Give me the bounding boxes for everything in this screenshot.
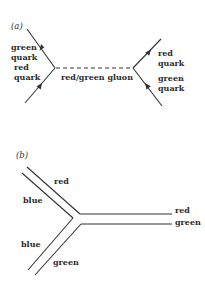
- label-green: green: [158, 73, 184, 83]
- label-green: green: [53, 257, 79, 267]
- label-blue: blue: [21, 239, 41, 249]
- feynman-diagram-canvas: (a) green quark red quark red/green gluo…: [0, 0, 205, 283]
- label-quark: quark: [14, 72, 41, 82]
- panel-a-label: (a): [11, 21, 23, 31]
- label-quark: quark: [11, 52, 38, 62]
- label-quark: quark: [158, 83, 185, 93]
- label-red: red: [158, 48, 173, 58]
- panel-b-label: (b): [16, 150, 28, 160]
- panel-a: (a) green quark red quark red/green gluo…: [11, 21, 185, 106]
- label-red: red: [175, 205, 190, 215]
- gluon-label: red/green gluon: [61, 72, 133, 82]
- arrow-icon: [145, 83, 151, 90]
- panel-b: (b) red blue blue green red green: [16, 150, 201, 275]
- label-red: red: [14, 62, 29, 72]
- label-quark: quark: [158, 58, 185, 68]
- red-color-line-upper: [27, 167, 80, 214]
- label-green: green: [175, 217, 201, 227]
- label-green: green: [11, 42, 37, 52]
- green-color-line-lower: [35, 224, 81, 275]
- label-blue: blue: [23, 195, 43, 205]
- label-red: red: [54, 176, 69, 186]
